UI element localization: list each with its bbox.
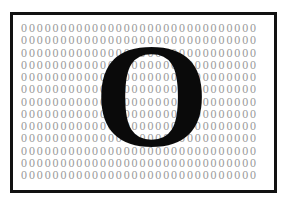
foreground-letter-o: O [94, 21, 198, 171]
figure-frame: 000000000000000000000000000000 000000000… [10, 12, 277, 193]
